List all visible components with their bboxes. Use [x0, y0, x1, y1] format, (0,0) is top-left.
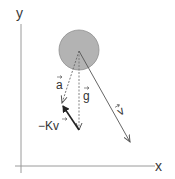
vector-label-drag: −Kv — [38, 118, 67, 134]
vector-diagram: y x a g v −Kv — [0, 0, 175, 179]
vector-label-v: v — [114, 103, 126, 119]
x-axis-label: x — [155, 158, 162, 174]
body-circle — [59, 30, 99, 70]
y-axis-label: y — [16, 5, 23, 21]
vector-arrow-accent-icon — [62, 118, 67, 121]
vector-label-g: g — [83, 87, 90, 104]
svg-text:a: a — [56, 78, 63, 92]
svg-text:v: v — [115, 103, 127, 118]
svg-text:−Kv: −Kv — [38, 119, 59, 133]
vector-label-a: a — [56, 76, 63, 93]
svg-text:g: g — [83, 89, 90, 103]
